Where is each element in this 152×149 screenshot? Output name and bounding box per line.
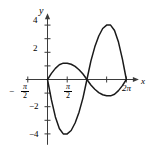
x-tick-label-neg-half-pi-sign: −: [9, 86, 14, 96]
coordinate-plane-svg: [0, 0, 152, 149]
y-axis-label: y: [39, 6, 43, 16]
fraction-denominator: 2: [16, 92, 34, 100]
y-tick-label-4: 4: [33, 16, 38, 25]
graph-figure: y x 4 2 −2 −4 − π 2 π 2 2π: [0, 0, 152, 149]
x-tick-label-neg-half-pi: π 2: [16, 83, 34, 100]
fraction-numerator: π: [59, 83, 77, 91]
x-tick-label-two-pi: 2π: [122, 84, 131, 93]
fraction-numerator: π: [16, 83, 34, 91]
x-tick-label-half-pi: π 2: [59, 83, 77, 100]
y-tick-label-2: 2: [33, 44, 38, 53]
y-tick-label-neg4: −4: [29, 130, 39, 139]
fraction-denominator: 2: [59, 92, 77, 100]
axis-layer: [26, 13, 139, 145]
x-axis-label: x: [141, 77, 145, 86]
y-tick-label-neg2: −2: [29, 102, 39, 111]
